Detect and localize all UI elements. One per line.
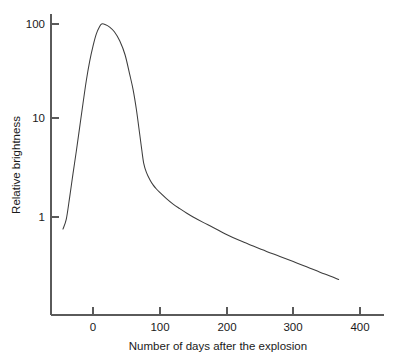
x-tick-label-400: 400 <box>350 321 369 333</box>
x-tick-label-0: 0 <box>90 321 96 333</box>
y-axis-ticks <box>51 24 59 217</box>
x-tick-label-100: 100 <box>150 321 169 333</box>
y-axis-title: Relative brightness <box>10 116 22 214</box>
y-tick-label-10: 10 <box>32 112 45 124</box>
y-tick-label-100: 100 <box>26 18 45 30</box>
light-curve-path <box>63 24 339 280</box>
x-tick-label-200: 200 <box>217 321 236 333</box>
x-tick-label-300: 300 <box>283 321 302 333</box>
x-axis-title: Number of days after the explosion <box>129 340 307 352</box>
y-tick-label-1: 1 <box>39 211 45 223</box>
light-curve-figure: 100 10 1 0 100 200 300 400 Number of day… <box>0 0 398 356</box>
x-axis-ticks <box>93 307 360 315</box>
chart-canvas: 100 10 1 0 100 200 300 400 Number of day… <box>0 0 398 356</box>
